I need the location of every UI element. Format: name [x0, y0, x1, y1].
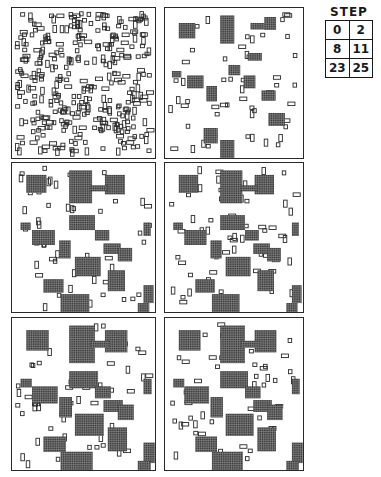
particle — [108, 98, 112, 102]
cluster — [228, 65, 240, 75]
cluster — [286, 461, 298, 470]
particle — [249, 349, 253, 353]
particle — [74, 141, 78, 145]
particle — [142, 240, 146, 244]
cluster — [286, 303, 297, 312]
cluster — [95, 386, 111, 398]
particle — [84, 140, 88, 144]
cluster — [32, 230, 55, 245]
particle — [56, 457, 60, 461]
cluster — [32, 386, 58, 403]
particle — [41, 87, 45, 94]
particle — [72, 101, 76, 105]
particle — [37, 27, 44, 31]
legend-row: 0 2 — [326, 21, 373, 40]
particle — [182, 60, 189, 64]
cluster — [26, 330, 48, 350]
particle — [248, 449, 252, 453]
particle — [37, 361, 41, 365]
cluster — [264, 17, 276, 30]
particle — [96, 17, 100, 21]
cluster — [226, 414, 254, 436]
particle — [177, 97, 181, 104]
particle — [20, 141, 24, 145]
particle — [147, 128, 154, 132]
legend-cell: 0 — [326, 21, 350, 40]
particle — [210, 271, 217, 275]
cluster — [211, 397, 223, 417]
particle — [137, 293, 141, 297]
particle — [133, 80, 137, 84]
legend-cell: 11 — [349, 40, 373, 59]
particle — [126, 366, 130, 373]
particle — [148, 101, 152, 105]
particle — [206, 144, 210, 148]
cluster — [61, 452, 93, 470]
particle — [35, 261, 39, 268]
cluster — [75, 414, 104, 436]
particle — [95, 77, 102, 81]
cluster — [292, 379, 300, 394]
particle — [60, 26, 64, 33]
particle — [181, 104, 188, 108]
particle — [232, 246, 236, 253]
particle — [17, 389, 21, 396]
particle — [20, 119, 24, 126]
particle — [177, 356, 181, 360]
particle — [113, 57, 120, 61]
particle — [147, 74, 151, 78]
particle — [143, 119, 147, 126]
particle — [21, 412, 25, 416]
cluster — [187, 76, 203, 89]
particle — [53, 110, 57, 114]
particle — [126, 101, 130, 105]
particle — [293, 193, 300, 197]
particle — [142, 72, 146, 76]
cluster — [59, 397, 72, 417]
particle — [246, 35, 250, 39]
particle — [137, 73, 141, 80]
particle — [122, 146, 126, 150]
particle — [279, 135, 283, 142]
particle — [17, 91, 24, 95]
particle — [82, 19, 86, 23]
particle — [105, 256, 112, 260]
particle — [131, 116, 135, 120]
particle — [18, 95, 22, 99]
particle — [223, 251, 230, 255]
cluster — [108, 427, 127, 451]
particle — [78, 132, 82, 136]
particle — [80, 79, 87, 83]
particle — [50, 142, 57, 146]
particle — [110, 81, 114, 85]
particle — [136, 145, 140, 149]
particle — [145, 133, 149, 137]
cluster — [144, 379, 152, 394]
cluster — [292, 223, 299, 236]
particle — [93, 126, 97, 130]
particle — [288, 338, 292, 342]
particle — [23, 48, 27, 52]
particle — [138, 231, 142, 235]
particle — [131, 145, 135, 149]
lattice-canvas — [165, 318, 303, 470]
particle — [222, 78, 226, 82]
particle — [136, 347, 140, 351]
particle — [57, 293, 61, 297]
particle — [46, 60, 50, 67]
particle — [288, 370, 292, 374]
cluster — [61, 294, 90, 312]
particle — [101, 293, 105, 297]
particle — [171, 287, 175, 294]
particle — [282, 171, 286, 175]
particle — [21, 13, 25, 17]
particle — [173, 419, 177, 423]
particle — [120, 130, 124, 134]
particle — [29, 86, 36, 90]
particle — [67, 72, 71, 76]
particle — [250, 111, 254, 118]
particle — [62, 128, 66, 132]
particle — [259, 225, 266, 229]
particle — [65, 65, 69, 69]
particle — [65, 78, 69, 82]
